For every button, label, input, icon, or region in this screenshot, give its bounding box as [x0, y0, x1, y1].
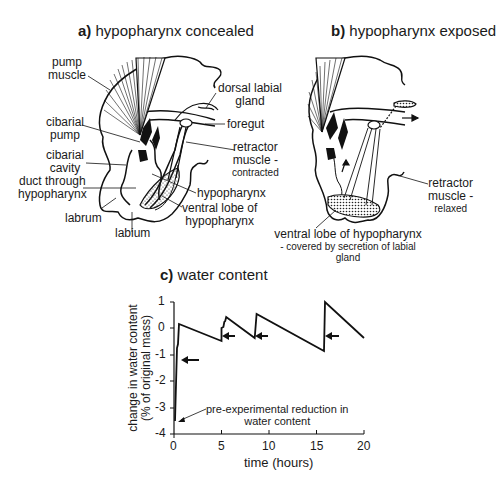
label-line: muscle -: [232, 154, 279, 167]
y-axis-label: change in water content (% of original m…: [127, 268, 153, 468]
y-tick-neg2: -2: [155, 373, 166, 387]
label-labium: labium: [115, 227, 150, 240]
label-duct-through-hypopharynx: duct through hypopharynx: [18, 175, 87, 201]
label-line: muscle: [48, 69, 86, 82]
label-pump-muscle: pump muscle: [48, 56, 86, 82]
x-tick-15: 15: [310, 439, 323, 453]
x-tick-10: 10: [262, 439, 275, 453]
label-line: gland: [266, 252, 430, 263]
label-retractor-muscle-relaxed: retractor muscle - relaxed: [428, 177, 473, 214]
x-tick-20: 20: [357, 439, 370, 453]
label-foregut: foregut: [227, 118, 264, 131]
label-retractor-muscle-contracted: retractor muscle - contracted: [232, 141, 279, 178]
label-dorsal-labial-gland: dorsal labial gland: [218, 82, 282, 108]
panel-b-cibarial-pump-shape: [326, 112, 348, 160]
label-line: ventral lobe of hypopharynx: [266, 228, 430, 241]
annotation-pointer: [181, 409, 206, 420]
label-line: hypopharynx: [182, 215, 257, 228]
label-line: hypopharynx: [18, 188, 87, 201]
label-line: muscle -: [428, 190, 473, 203]
x-tick-5: 5: [218, 439, 225, 453]
panel-b-ventral-lobe: [328, 101, 418, 217]
panel-b-muscle-fan: [308, 58, 345, 132]
chart-annotation: pre-experimental reduction in water cont…: [206, 403, 348, 427]
chart-arrowheads: [181, 332, 332, 364]
label-ventral-lobe-a: ventral lobe of hypopharynx: [182, 202, 257, 228]
x-axis-label: time (hours): [244, 456, 313, 469]
chart-arrows: [186, 336, 339, 360]
label-line: relaxed: [428, 203, 473, 214]
label-line: contracted: [232, 167, 279, 178]
label-ventral-lobe-b: ventral lobe of hypopharynx - covered by…: [266, 228, 430, 263]
label-cibarial-cavity: cibarial cavity: [46, 149, 84, 175]
annotation-line: pre-experimental reduction in: [206, 403, 348, 415]
label-labrum: labrum: [65, 212, 102, 225]
x-tick-0: 0: [170, 439, 177, 453]
annotation-line: water content: [206, 415, 348, 427]
y-tick-neg1: -1: [155, 347, 166, 361]
y-tick-neg3: -3: [155, 400, 166, 414]
label-line: gland: [218, 95, 282, 108]
y-tick-0: 0: [158, 320, 165, 334]
label-line: pump: [46, 129, 84, 142]
label-line: - covered by secretion of labial: [266, 241, 430, 252]
label-cibarial-pump: cibarial pump: [46, 116, 84, 142]
label-hypopharynx: hypopharynx: [197, 187, 266, 200]
y-tick-neg4: -4: [155, 426, 166, 440]
panel-a-muscle-fan: [104, 57, 165, 135]
y-axis-label-line: (% of original mass): [140, 268, 153, 468]
y-tick-1: 1: [158, 294, 165, 308]
